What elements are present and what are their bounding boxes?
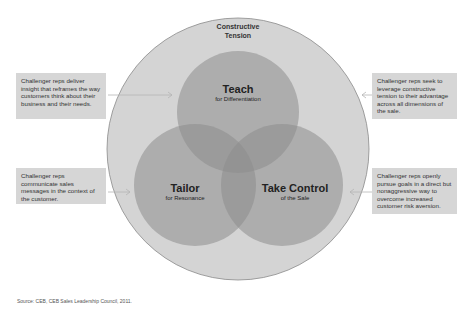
tailor-title: Tailor xyxy=(140,182,230,194)
source-note: Source: CEB, CEB Sales Leadership Counci… xyxy=(17,298,132,304)
outer-label-line1: Constructive xyxy=(217,23,260,30)
callout-take-control: Challenger reps openly pursue goals in a… xyxy=(372,168,457,214)
take-control-subtitle: of the Sale xyxy=(250,194,340,202)
callout-tailor: Challenger reps communicate sales messag… xyxy=(16,168,106,204)
callout-teach: Challenger reps deliver insight that ref… xyxy=(16,73,106,119)
callout-constructive-tension: Challenger reps seek to leverage constru… xyxy=(372,73,457,119)
teach-title: Teach xyxy=(188,83,288,95)
take-control-title: Take Control xyxy=(250,182,340,194)
take-control-label: Take Control of the Sale xyxy=(250,182,340,202)
tailor-label: Tailor for Resonance xyxy=(140,182,230,202)
teach-label: Teach for Differentiation xyxy=(188,83,288,103)
tailor-subtitle: for Resonance xyxy=(140,194,230,202)
outer-label-line2: Tension xyxy=(225,32,251,39)
teach-subtitle: for Differentiation xyxy=(188,95,288,103)
constructive-tension-label: Constructive Tension xyxy=(198,22,278,40)
venn-diagram xyxy=(0,0,472,317)
